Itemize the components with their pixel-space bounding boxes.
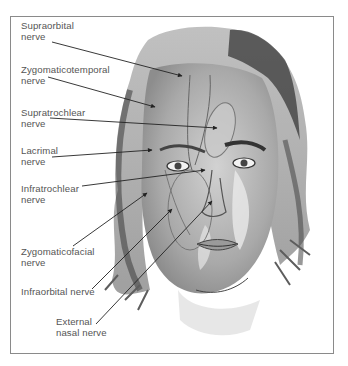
label-text: Zygomaticotemporal xyxy=(21,64,110,75)
label-text: nerve xyxy=(21,194,79,205)
label-text: nasal nerve xyxy=(56,327,107,338)
label-text: Infratrochlear xyxy=(21,183,79,194)
label-text: nerve xyxy=(21,257,95,268)
label-zygomaticotemporal-nerve: Zygomaticotemporal nerve xyxy=(21,64,110,86)
label-lacrimal-nerve: Lacrimal nerve xyxy=(21,145,58,167)
label-text: Zygomaticofacial xyxy=(21,246,95,257)
label-text: Supraorbital xyxy=(21,20,74,31)
label-supraorbital-nerve: Supraorbital nerve xyxy=(21,20,74,42)
label-text: nerve xyxy=(21,31,74,42)
label-text: Supratrochlear xyxy=(21,107,85,118)
label-text: Infraorbital nerve xyxy=(21,286,95,297)
label-infraorbital-nerve: Infraorbital nerve xyxy=(21,286,95,297)
label-zygomaticofacial-nerve: Zygomaticofacial nerve xyxy=(21,246,95,268)
label-text: External xyxy=(56,316,107,327)
label-text: nerve xyxy=(21,118,85,129)
label-supratrochlear-nerve: Supratrochlear nerve xyxy=(21,107,85,129)
label-infratrochlear-nerve: Infratrochlear nerve xyxy=(21,183,79,205)
label-external-nasal-nerve: External nasal nerve xyxy=(56,316,107,338)
label-text: nerve xyxy=(21,75,110,86)
label-text: nerve xyxy=(21,156,58,167)
label-text: Lacrimal xyxy=(21,145,58,156)
